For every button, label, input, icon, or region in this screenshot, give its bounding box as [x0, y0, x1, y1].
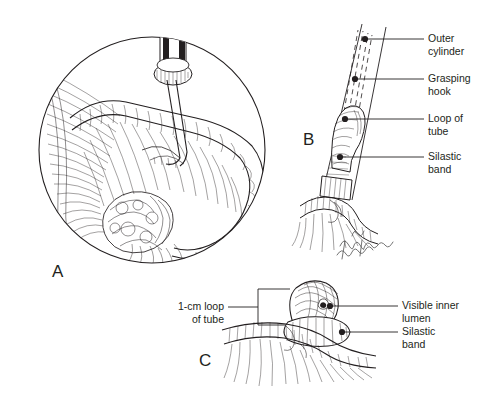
silastic-band-on-cylinder — [320, 176, 352, 200]
ovary — [103, 192, 173, 253]
dot-grasping-hook — [352, 76, 358, 82]
label-visible-inner-lumen: Visible inner lumen — [402, 299, 459, 324]
label-silastic-band-c: Silastic band — [402, 325, 435, 350]
panel-a-group — [39, 14, 265, 268]
dot-silastic-band-c — [339, 329, 345, 335]
label-one-cm-loop-of-tube: 1-cm loop of tube — [148, 300, 224, 325]
panel-letter-c: C — [199, 351, 211, 371]
panel-c-mesosalpinx — [224, 339, 372, 386]
panel-c-group — [222, 281, 398, 386]
panel-letter-b: B — [303, 130, 314, 150]
dot-loop-of-tube — [342, 116, 348, 122]
panel-letter-a: A — [52, 262, 63, 282]
dot-outer-cylinder — [362, 36, 368, 42]
dot-silastic-band-b — [337, 154, 343, 160]
one-cm-bracket — [228, 289, 290, 325]
label-outer-cylinder: Outer cylinder — [428, 32, 464, 57]
illustration-canvas — [0, 0, 490, 412]
dot-visible-inner-lumen — [327, 303, 333, 309]
figure-container: A B C Outer cylinder Grasping hook Loop … — [0, 0, 490, 412]
label-loop-of-tube: Loop of tube — [428, 112, 463, 137]
panel-b-anatomy — [292, 196, 378, 252]
label-grasping-hook: Grasping hook — [428, 72, 471, 97]
label-silastic-band-b: Silastic band — [428, 150, 461, 175]
